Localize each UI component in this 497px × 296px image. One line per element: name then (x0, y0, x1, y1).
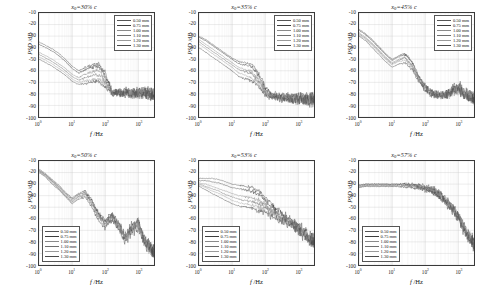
y-tick-label: -50 (189, 205, 196, 210)
y-tick-label: -30 (29, 33, 36, 38)
legend: 0.50 mm0.75 mm1.00 mm1.10 mm1.20 mm1.30 … (434, 15, 472, 51)
x-axis-label: f /Hz (198, 130, 315, 137)
legend: 0.50 mm0.75 mm1.00 mm1.10 mm1.20 mm1.30 … (274, 15, 312, 51)
plot-area: 0.50 mm0.75 mm1.00 mm1.10 mm1.20 mm1.30 … (358, 12, 475, 118)
x-axis-label: f /Hz (358, 278, 475, 285)
y-tick-label: -70 (349, 80, 356, 85)
legend-swatch (365, 241, 379, 242)
y-tick-label: -50 (189, 57, 196, 62)
y-tick-label: -10 (189, 10, 196, 15)
legend-swatch (117, 40, 131, 41)
x-tick-label: 103 (295, 119, 302, 127)
legend-swatch (117, 45, 131, 46)
x-tick-label: 100 (34, 267, 41, 275)
y-tick-label: -50 (349, 205, 356, 210)
x-tick-label: 102 (262, 119, 269, 127)
x-tick-label: 103 (135, 119, 142, 127)
psd-figure-grid: x0=30% cPSD /dB-10-20-30-40-50-60-70-80-… (0, 0, 497, 296)
x-tick-label: 101 (68, 119, 75, 127)
panel-x0-35: x0=35% cPSD /dB-10-20-30-40-50-60-70-80-… (164, 2, 324, 150)
y-axis-ticks: -10-20-30-40-50-60-70-80-90-100 (172, 160, 196, 266)
x-tick-label: 100 (194, 267, 201, 275)
legend-swatch (277, 20, 291, 21)
x-tick-label: 103 (455, 267, 462, 275)
legend-swatch (117, 20, 131, 21)
legend-swatch (45, 256, 59, 257)
y-tick-label: -50 (29, 205, 36, 210)
x-axis-label: f /Hz (38, 278, 155, 285)
y-axis-ticks: -10-20-30-40-50-60-70-80-90-100 (332, 12, 356, 118)
x-axis-ticks: 100101102103 (358, 267, 475, 276)
legend-swatch (205, 236, 219, 237)
plot-area: 0.50 mm0.75 mm1.00 mm1.10 mm1.20 mm1.30 … (38, 12, 155, 118)
x-tick-label: 103 (295, 267, 302, 275)
x-tick-label: 100 (34, 119, 41, 127)
plot-area: 0.50 mm0.75 mm1.00 mm1.10 mm1.20 mm1.30 … (198, 12, 315, 118)
x-axis-label: f /Hz (198, 278, 315, 285)
y-tick-label: -30 (29, 181, 36, 186)
legend-label: 1.30 mm (381, 254, 397, 259)
legend-swatch (205, 246, 219, 247)
legend-swatch (117, 35, 131, 36)
y-tick-label: -60 (349, 216, 356, 221)
y-axis-ticks: -10-20-30-40-50-60-70-80-90-100 (12, 12, 36, 118)
legend-swatch (437, 30, 451, 31)
legend-swatch (365, 246, 379, 247)
legend-swatch (437, 40, 451, 41)
y-axis-ticks: -10-20-30-40-50-60-70-80-90-100 (172, 12, 196, 118)
legend-item: 1.30 mm (205, 254, 237, 259)
y-tick-label: -80 (349, 92, 356, 97)
legend: 0.50 mm0.75 mm1.00 mm1.10 mm1.20 mm1.30 … (362, 226, 400, 262)
x-tick-label: 101 (388, 267, 395, 275)
legend-swatch (437, 35, 451, 36)
x-tick-label: 102 (102, 267, 109, 275)
x-axis-ticks: 100101102103 (198, 267, 315, 276)
legend-swatch (45, 251, 59, 252)
legend-item: 1.30 mm (437, 43, 469, 48)
legend-swatch (365, 236, 379, 237)
y-tick-label: -60 (189, 68, 196, 73)
x-axis-ticks: 100101102103 (38, 119, 155, 128)
x-tick-label: 102 (102, 119, 109, 127)
legend-swatch (277, 40, 291, 41)
x-tick-label: 101 (228, 267, 235, 275)
x-axis-ticks: 100101102103 (198, 119, 315, 128)
y-tick-label: -20 (29, 169, 36, 174)
y-tick-label: -90 (349, 104, 356, 109)
y-tick-label: -40 (29, 193, 36, 198)
plot-area: 0.50 mm0.75 mm1.00 mm1.10 mm1.20 mm1.30 … (358, 160, 475, 266)
y-tick-label: -20 (189, 169, 196, 174)
x-axis-ticks: 100101102103 (38, 267, 155, 276)
y-tick-label: -80 (29, 92, 36, 97)
legend-swatch (45, 236, 59, 237)
x-tick-label: 102 (422, 267, 429, 275)
legend-swatch (277, 35, 291, 36)
legend-swatch (365, 256, 379, 257)
legend-swatch (277, 25, 291, 26)
y-tick-label: -90 (349, 252, 356, 257)
y-tick-label: -20 (349, 21, 356, 26)
legend-label: 1.30 mm (61, 254, 77, 259)
x-tick-label: 100 (354, 119, 361, 127)
legend-swatch (45, 241, 59, 242)
legend-swatch (205, 231, 219, 232)
legend-label: 1.30 mm (221, 254, 237, 259)
y-tick-label: -80 (189, 92, 196, 97)
legend-swatch (365, 231, 379, 232)
y-tick-label: -10 (29, 10, 36, 15)
plot-area: 0.50 mm0.75 mm1.00 mm1.10 mm1.20 mm1.30 … (198, 160, 315, 266)
y-tick-label: -60 (189, 216, 196, 221)
legend-item: 1.30 mm (365, 254, 397, 259)
y-tick-label: -60 (349, 68, 356, 73)
x-tick-label: 100 (194, 119, 201, 127)
y-tick-label: -50 (349, 57, 356, 62)
x-tick-label: 101 (68, 267, 75, 275)
y-tick-label: -70 (29, 228, 36, 233)
plot-area: 0.50 mm0.75 mm1.00 mm1.10 mm1.20 mm1.30 … (38, 160, 155, 266)
panel-x0-50: x0=50% cPSD /dB-10-20-30-40-50-60-70-80-… (4, 150, 164, 296)
y-tick-label: -70 (349, 228, 356, 233)
legend: 0.50 mm0.75 mm1.00 mm1.10 mm1.20 mm1.30 … (202, 226, 240, 262)
x-tick-label: 100 (354, 267, 361, 275)
legend-label: 1.30 mm (293, 43, 309, 48)
y-tick-label: -20 (29, 21, 36, 26)
